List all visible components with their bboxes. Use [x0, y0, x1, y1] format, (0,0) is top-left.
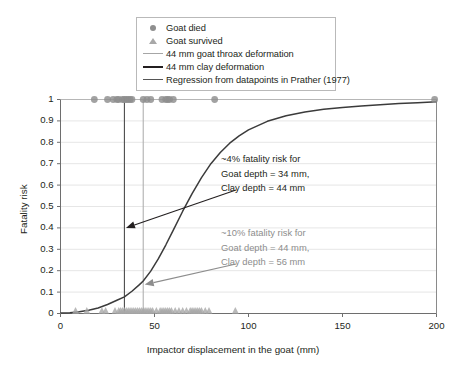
- legend-label: Regression from datapoints in Prather (1…: [164, 75, 350, 85]
- legend-item-goat-died: Goat died: [142, 21, 330, 34]
- annotation-clay: ~4% fatality risk for Goat depth = 34 mm…: [221, 152, 309, 196]
- data-point-goat-died: [211, 96, 218, 103]
- annotation-goat: ~10% fatality risk for Goat depth = 44 m…: [221, 226, 309, 270]
- annotation-clay-arrow-head: [126, 222, 136, 229]
- x-axis-label: Impactor displacement in the goat (mm): [0, 344, 466, 355]
- y-tick-label: 0.8: [40, 136, 53, 147]
- y-tick-label: 0.1: [40, 286, 53, 297]
- legend-label: 44 mm clay deformation: [164, 62, 264, 72]
- legend-label: Goat died: [164, 23, 206, 33]
- y-tick-label: 0.2: [40, 264, 53, 275]
- y-tick-label: 0.7: [40, 157, 53, 168]
- chart-legend: Goat died Goat survived 44 mm goat throa…: [136, 17, 336, 91]
- legend-item-goat-throax-deformation: 44 mm goat throax deformation: [142, 47, 330, 60]
- annotation-goat-line2: Goat depth = 44 mm,: [221, 241, 309, 256]
- regression-curve: [61, 102, 437, 313]
- y-tick-label: 0: [48, 307, 53, 318]
- y-tick-label: 0.5: [40, 200, 53, 211]
- annotation-clay-line2: Goat depth = 34 mm,: [221, 167, 309, 182]
- fatality-risk-chart-figure: Goat died Goat survived 44 mm goat throa…: [0, 0, 466, 369]
- data-point-goat-survived: [72, 307, 79, 314]
- legend-item-goat-survived: Goat survived: [142, 34, 330, 47]
- data-point-goat-survived: [232, 307, 239, 314]
- data-point-goat-died: [431, 96, 438, 103]
- legend-label: Goat survived: [164, 36, 223, 46]
- annotation-clay-line1: ~4% fatality risk for: [221, 152, 309, 167]
- annotation-goat-arrow-head: [145, 279, 155, 286]
- x-tick-label: 0: [41, 320, 81, 331]
- circle-marker-icon: [142, 21, 164, 34]
- x-tick-label: 200: [417, 320, 457, 331]
- y-tick-label: 0.4: [40, 221, 53, 232]
- data-point-goat-died: [91, 96, 98, 103]
- annotation-clay-line3: Clay depth = 44 mm: [221, 181, 309, 196]
- line-swatch-icon: [142, 47, 164, 60]
- annotation-goat-line3: Clay depth = 56 mm: [221, 255, 309, 270]
- y-axis-label: Fatality risk: [18, 184, 29, 234]
- x-tick-label: 50: [135, 320, 175, 331]
- line-swatch-icon: [142, 73, 164, 86]
- data-point-goat-died: [129, 96, 136, 103]
- data-point-goat-died: [147, 96, 154, 103]
- regression-curve-path: [61, 102, 437, 313]
- y-tick-label: 0.6: [40, 179, 53, 190]
- data-point-goat-died: [170, 96, 177, 103]
- x-tick-label: 150: [323, 320, 363, 331]
- annotation-arrows-group: [126, 190, 236, 286]
- triangle-marker-icon: [142, 34, 164, 47]
- annotation-goat-line1: ~10% fatality risk for: [221, 226, 309, 241]
- line-swatch-icon: [142, 60, 164, 73]
- y-tick-label: 0.9: [40, 114, 53, 125]
- axis-ticks-group: [57, 100, 437, 318]
- legend-label: 44 mm goat throax deformation: [164, 49, 294, 59]
- legend-item-clay-deformation: 44 mm clay deformation: [142, 60, 330, 73]
- y-tick-label: 1: [48, 93, 53, 104]
- x-tick-label: 100: [229, 320, 269, 331]
- y-tick-label: 0.3: [40, 243, 53, 254]
- legend-item-regression: Regression from datapoints in Prather (1…: [142, 73, 330, 86]
